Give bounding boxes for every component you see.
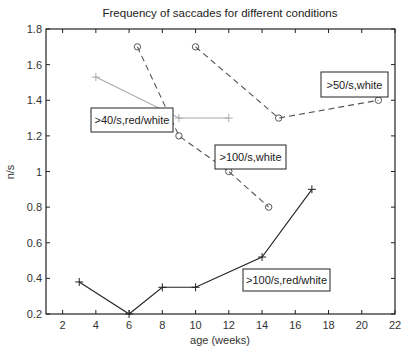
saccade-frequency-chart: Frequency of saccades for different cond… [0, 0, 414, 358]
x-tick-label: 6 [126, 319, 132, 331]
plus-marker [92, 73, 100, 81]
x-tick-label: 2 [60, 319, 66, 331]
y-tick-label: 1.8 [27, 23, 42, 35]
circle-marker [176, 133, 182, 139]
y-tick-label: 0.8 [27, 201, 42, 213]
series-label-box: >40/s,red/white [91, 108, 173, 132]
y-tick-label: 1.4 [27, 94, 42, 106]
x-tick-label: 12 [223, 319, 235, 331]
series-label-text: >40/s,red/white [95, 114, 170, 126]
plus-marker [258, 253, 266, 261]
x-tick-label: 20 [356, 319, 368, 331]
x-tick-label: 14 [256, 319, 268, 331]
series-100-s-red-white [75, 185, 316, 318]
plus-marker [192, 283, 200, 291]
y-tick-label: 0.4 [27, 272, 42, 284]
x-tick-label: 18 [322, 319, 334, 331]
y-tick-label: 0.2 [27, 308, 42, 320]
series-label-box: >100/s,white [215, 145, 286, 169]
plus-marker [175, 114, 183, 122]
series-label-box: >100/s,red/white [243, 269, 330, 291]
y-tick-label: 1.6 [27, 59, 42, 71]
series-label-text: >100/s,red/white [246, 274, 327, 286]
x-axis-label: age (weeks) [190, 334, 250, 346]
y-axis-label: n/s [4, 164, 16, 179]
plus-marker [225, 114, 233, 122]
x-tick-label: 10 [189, 319, 201, 331]
plus-marker [75, 278, 83, 286]
series-label-text: >100/s,white [219, 151, 281, 163]
x-tick-label: 4 [93, 319, 99, 331]
x-tick-label: 22 [389, 319, 401, 331]
y-tick-label: 1.2 [27, 130, 42, 142]
x-tick-label: 16 [289, 319, 301, 331]
y-tick-label: 0.6 [27, 237, 42, 249]
series-label-text: >50/s,white [327, 79, 383, 91]
chart-title: Frequency of saccades for different cond… [102, 7, 337, 19]
series-label-box: >50/s,white [321, 72, 388, 97]
x-tick-label: 8 [159, 319, 165, 331]
y-tick-label: 1 [36, 166, 42, 178]
plus-marker [308, 185, 316, 193]
series-line [79, 189, 312, 314]
